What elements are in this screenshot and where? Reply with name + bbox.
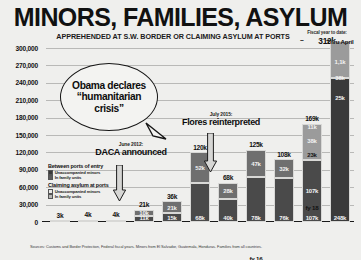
legend-label: In family units xyxy=(55,175,82,180)
flores-arrow-icon xyxy=(204,133,217,173)
bar-column: 3k3kfy 09 xyxy=(50,220,70,222)
legend-label: In family units xyxy=(55,194,82,199)
callout-tail-icon xyxy=(145,122,167,140)
source-note: Sources: Customs and Border Protection, … xyxy=(30,244,350,249)
daca-annotation: June 2012: DACA announced xyxy=(92,142,170,157)
legend-label: Unaccompanied minors xyxy=(55,170,100,175)
bar-total-label: 4k xyxy=(98,211,134,218)
y-axis-tick-label: 180,000 xyxy=(0,114,38,121)
chart-legend: Between ports of entry Unaccompanied min… xyxy=(48,163,114,200)
flores-annotation: July 2015: Flores reinterpreted xyxy=(176,112,266,127)
legend-item-between-family: In family units xyxy=(48,175,114,180)
legend-item-between-unaccompanied: Unaccompanied minors xyxy=(48,170,114,175)
y-axis-tick-label: 120,000 xyxy=(0,149,38,156)
x-axis-tick-label: Thru April xyxy=(321,38,359,45)
bar-segment-label: 40k xyxy=(218,215,238,221)
bar-segment-label: 107k xyxy=(302,188,322,194)
bar-total-label: 68k xyxy=(210,174,246,181)
infographic-chart: MINORS, FAMILIES, ASYLUM APPREHENDED AT … xyxy=(0,0,361,260)
chart-subtitle: APPREHENDED AT S.W. BORDER OR CLAIMING A… xyxy=(28,32,318,41)
y-axis-tick-label: 240,000 xyxy=(0,79,38,86)
bar-segment-label: 32k xyxy=(274,166,294,172)
bar-segment-label: 23k xyxy=(302,152,322,158)
bar-column: 78k47k125kfy 16 xyxy=(246,150,266,223)
gridline xyxy=(46,48,354,49)
flores-title: Flores reinterpreted xyxy=(176,117,266,127)
bar-segment-label: 107k xyxy=(302,215,322,221)
bar-segment-label: 38k xyxy=(330,75,350,81)
legend-swatch-icon xyxy=(48,189,53,194)
bar-segment-label: 28k xyxy=(218,188,238,194)
bar-segment-label: 11k xyxy=(302,124,322,130)
bar-total-label: 169k xyxy=(294,115,330,122)
y-axis-tick-label: 210,000 xyxy=(0,97,38,104)
bar-column: 76k32k108kfy 17 xyxy=(274,159,294,222)
page-title: MINORS, FAMILIES, ASYLUM xyxy=(0,4,361,30)
bar-segment-label: 1,1k xyxy=(330,59,350,65)
bar-column: 248k1,1k38k25kThru April xyxy=(330,41,350,222)
y-axis-tick-label: 30,000 xyxy=(0,201,38,208)
bar-segment-label: 15k xyxy=(162,215,182,221)
bar-segment-label: 68k xyxy=(190,215,210,221)
bar-segment-label: 78k xyxy=(246,215,266,221)
bar-segment-label: 21k xyxy=(162,205,182,211)
bar-segment-label: 47k xyxy=(246,161,266,167)
bar-total-label: 36k xyxy=(154,193,190,200)
obama-callout-bubble: Obama declares “humanitarian crisis” xyxy=(60,63,158,131)
bar-segment-label: 248k xyxy=(330,215,350,221)
bar-column: 11k10k21kfy 12 xyxy=(134,210,154,222)
y-axis-tick-label: 270,000 xyxy=(0,62,38,69)
daca-arrow-icon xyxy=(113,165,126,202)
y-axis-tick-label: 90,000 xyxy=(0,166,38,173)
bar-column: 40k28k68kfy 15 xyxy=(218,183,238,222)
legend-item-ports-unaccompanied: Unaccompanied minors xyxy=(48,189,114,194)
bar-column: 107k107k23k38k11k169kfy 18 xyxy=(302,124,322,222)
daca-title: DACA announced xyxy=(92,147,170,157)
legend-swatch-icon xyxy=(48,175,53,180)
bar-column: 15k21k36kfy 13 xyxy=(162,201,182,222)
y-axis-tick-label: 0 xyxy=(0,219,38,226)
legend-label: Unaccompanied minors xyxy=(55,189,100,194)
bar-total-label: 108k xyxy=(266,151,302,158)
bar-total-label: 125k xyxy=(238,141,274,148)
legend-group-1-title: Between ports of entry xyxy=(48,163,114,169)
x-axis-tick-label: fy 18 xyxy=(293,204,331,211)
y-axis-tick-label: 150,000 xyxy=(0,132,38,139)
bar-column: 4k4kfy 10 xyxy=(78,220,98,222)
legend-item-ports-family: In family units xyxy=(48,194,114,199)
x-axis-tick-label: fy 16 xyxy=(237,255,275,260)
y-axis-tick-label: 60,000 xyxy=(0,184,38,191)
legend-swatch-icon xyxy=(48,194,53,199)
bar-segment-label: 10k xyxy=(134,210,154,216)
y-axis-tick-label: 300,000 xyxy=(0,45,38,52)
bar-column: 4k4kfy 11 xyxy=(106,220,126,222)
fiscal-year-to-date-label: Fiscal year to date: xyxy=(296,30,358,35)
legend-swatch-icon xyxy=(48,170,53,175)
bar-total-label: 21k xyxy=(126,201,162,208)
bar-segment-label: 76k xyxy=(274,215,294,221)
legend-group-2-title: Claiming asylum at ports xyxy=(48,182,114,188)
bar-segment-label: 38k xyxy=(302,138,322,144)
bar-segment-label: 25k xyxy=(330,95,350,101)
